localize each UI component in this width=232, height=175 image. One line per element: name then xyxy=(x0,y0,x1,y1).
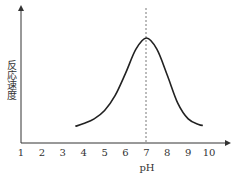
x-tick-label: 8 xyxy=(164,148,170,158)
x-tick-label: 6 xyxy=(122,148,128,158)
reaction-rate-curve xyxy=(75,38,202,126)
x-tick-label: 7 xyxy=(143,148,149,158)
x-tick-label: 5 xyxy=(101,148,107,158)
x-tick-label: 3 xyxy=(60,148,66,158)
x-tick-label: 1 xyxy=(18,148,24,158)
y-axis-label: 反応速度 xyxy=(4,60,16,100)
x-tick-label: 9 xyxy=(185,148,191,158)
enzyme-ph-chart xyxy=(0,0,232,175)
x-tick-label: 2 xyxy=(39,148,45,158)
x-tick-label: 10 xyxy=(203,148,216,158)
x-tick-label: 4 xyxy=(81,148,87,158)
x-axis-label: pH xyxy=(139,162,154,173)
